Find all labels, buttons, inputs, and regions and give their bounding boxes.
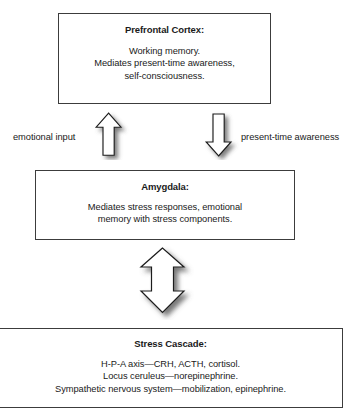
prefrontal-cortex-line-2: Mediates present-time awareness, (59, 57, 270, 69)
arrow-double-headed-icon (136, 244, 202, 320)
stress-cascade-line-2: Locus ceruleus—norepinephrine. (0, 370, 342, 382)
amygdala-title: Amygdala: (36, 181, 294, 193)
present-time-awareness-label: present-time awareness (241, 131, 339, 143)
prefrontal-cortex-box: Prefrontal Cortex: Working memory. Media… (58, 13, 271, 104)
prefrontal-cortex-body: Working memory. Mediates present-time aw… (59, 45, 270, 82)
amygdala-line-1: Mediates stress responses, emotional (36, 201, 294, 213)
prefrontal-cortex-line-1: Working memory. (59, 45, 270, 57)
amygdala-body: Mediates stress responses, emotional mem… (36, 201, 294, 226)
stress-cascade-line-1: H-P-A axis—CRH, ACTH, cortisol. (0, 358, 342, 370)
stress-cascade-title: Stress Cascade: (0, 338, 342, 350)
amygdala-line-2: memory with stress components. (36, 213, 294, 225)
arrow-up-icon (90, 110, 138, 160)
prefrontal-cortex-title: Prefrontal Cortex: (59, 24, 270, 36)
prefrontal-cortex-line-3: self-consciousness. (59, 70, 270, 82)
stress-cascade-box: Stress Cascade: H-P-A axis—CRH, ACTH, co… (0, 328, 343, 408)
emotional-input-label: emotional input (13, 131, 75, 143)
stress-cascade-line-3: Sympathetic nervous system—mobilization,… (0, 383, 342, 395)
stress-cascade-body: H-P-A axis—CRH, ACTH, cortisol. Locus ce… (0, 358, 342, 395)
amygdala-box: Amygdala: Mediates stress responses, emo… (35, 170, 295, 240)
